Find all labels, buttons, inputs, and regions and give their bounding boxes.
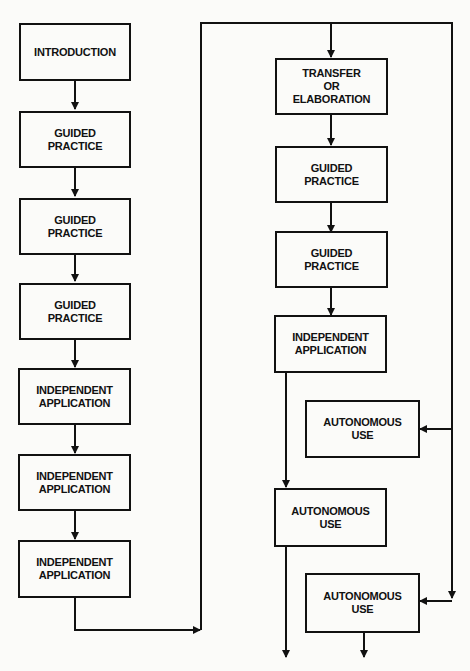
box-independent-application-2: INDEPENDENT APPLICATION: [18, 454, 131, 511]
box-independent-application-4: INDEPENDENT APPLICATION: [274, 315, 387, 373]
arrow-ia3-connector: [75, 597, 200, 630]
box-guided-practice-2: GUIDED PRACTICE: [19, 198, 131, 255]
box-label: INDEPENDENT APPLICATION: [36, 556, 113, 582]
box-label: TRANSFER OR ELABORATION: [293, 67, 371, 106]
box-autonomous-use-3: AUTONOMOUS USE: [305, 573, 420, 633]
box-guided-practice-3: GUIDED PRACTICE: [19, 283, 131, 340]
box-label: AUTONOMOUS USE: [323, 590, 401, 616]
box-label: GUIDED PRACTICE: [304, 162, 359, 188]
box-autonomous-use-1: AUTONOMOUS USE: [305, 400, 420, 458]
box-label: GUIDED PRACTICE: [304, 247, 359, 273]
box-independent-application-3: INDEPENDENT APPLICATION: [18, 540, 131, 598]
box-label: GUIDED PRACTICE: [48, 214, 103, 240]
box-label: AUTONOMOUS USE: [291, 505, 369, 531]
box-guided-practice-1: GUIDED PRACTICE: [19, 111, 131, 168]
box-label: AUTONOMOUS USE: [323, 416, 401, 442]
box-introduction: INTRODUCTION: [19, 23, 131, 81]
box-label: INDEPENDENT APPLICATION: [36, 470, 113, 496]
box-transfer-or-elaboration: TRANSFER OR ELABORATION: [275, 58, 388, 115]
box-label: INDEPENDENT APPLICATION: [292, 331, 369, 357]
box-label: INDEPENDENT APPLICATION: [36, 384, 113, 410]
box-guided-practice-5: GUIDED PRACTICE: [275, 231, 388, 288]
box-independent-application-1: INDEPENDENT APPLICATION: [18, 368, 131, 425]
box-autonomous-use-2: AUTONOMOUS USE: [274, 488, 387, 547]
box-guided-practice-4: GUIDED PRACTICE: [275, 146, 388, 203]
box-label: INTRODUCTION: [34, 46, 116, 59]
box-label: GUIDED PRACTICE: [48, 299, 103, 325]
box-label: GUIDED PRACTICE: [48, 127, 103, 153]
